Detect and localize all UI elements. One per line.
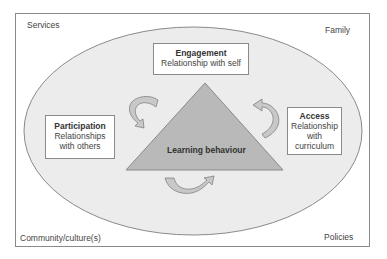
- node-engagement: Engagement Relationship with self: [153, 43, 249, 75]
- access-subtitle-line-3: curriculum: [288, 141, 341, 151]
- engagement-subtitle: Relationship with self: [154, 58, 248, 68]
- access-subtitle-line-2: with: [288, 131, 341, 141]
- learning-behaviour-label: Learning behaviour: [167, 145, 246, 155]
- access-subtitle-line-1: Relationship: [288, 121, 341, 131]
- label-family: Family: [325, 25, 350, 35]
- participation-subtitle-line-1: Relationships: [46, 131, 114, 141]
- access-title: Access: [288, 111, 341, 121]
- participation-title: Participation: [46, 121, 114, 131]
- label-services: Services: [27, 20, 60, 30]
- participation-subtitle-line-2: with others: [46, 141, 114, 151]
- label-community-culture: Community/culture(s): [20, 233, 101, 243]
- node-participation: Participation Relationships with others: [45, 115, 115, 159]
- label-policies: Policies: [324, 232, 353, 242]
- node-access: Access Relationship with curriculum: [287, 107, 342, 155]
- engagement-title: Engagement: [154, 48, 248, 58]
